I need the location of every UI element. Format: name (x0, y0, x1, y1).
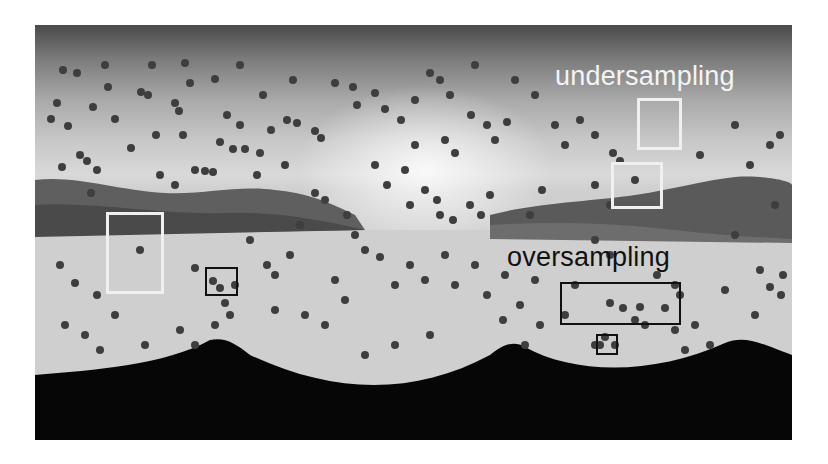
undersampling-box-2 (611, 162, 663, 209)
undersampling-box-1 (637, 98, 682, 150)
oversampling-box-3 (596, 334, 618, 355)
undersampling-label: undersampling (555, 63, 735, 90)
oversampling-box-2 (205, 267, 238, 296)
undersampling-box-3 (106, 212, 164, 294)
oversampling-box-1 (560, 282, 681, 325)
oversampling-label: oversampling (507, 244, 670, 271)
